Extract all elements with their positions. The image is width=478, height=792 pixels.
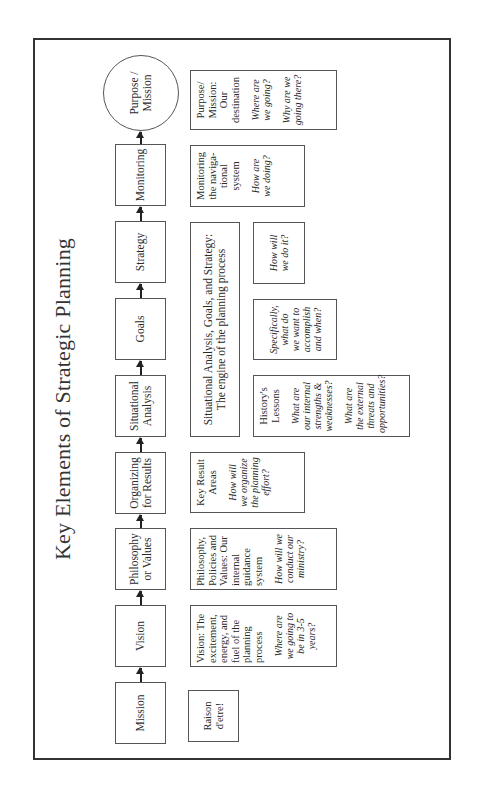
- desc-main: History's Lessons: [258, 379, 281, 433]
- desc-question: How are we doing?: [250, 149, 272, 203]
- desc-mission: Raison d'etre!: [188, 690, 239, 742]
- arrow-icon: [140, 591, 142, 605]
- desc-question: How will we organize the planning effort…: [227, 456, 271, 509]
- desc-question: How will we do it?: [268, 226, 290, 280]
- desc-question: What are the external threats and opport…: [343, 379, 387, 433]
- step-monitoring: Monitoring: [115, 144, 166, 206]
- desc-question: Where are we going?: [250, 74, 272, 126]
- arrow-icon: [140, 438, 142, 452]
- desc-main: Purpose/ Mission: Our destination: [195, 74, 241, 126]
- desc-question: Where are we going to be in 3-5 years?: [273, 609, 317, 663]
- desc-purpose: Purpose/ Mission: Our destination Where …: [190, 70, 337, 130]
- step-situational-analysis: Situational Analysis: [115, 375, 166, 437]
- desc-question: Why are we going there?: [281, 74, 303, 126]
- step-label: Strategy: [134, 233, 147, 271]
- step-vision: Vision: [115, 605, 166, 667]
- desc-question: What are our internal strengths & weakne…: [290, 379, 334, 433]
- desc-question: How will we conduct our ministry?: [273, 532, 306, 586]
- desc-monitoring: Monitoring the naviga- tional system How…: [190, 145, 305, 207]
- desc-main: Situational Analysis, Goals, and Strateg…: [202, 226, 228, 433]
- desc-vision: Vision: The excitement, energy, and fuel…: [190, 605, 337, 667]
- desc-main: Raison d'etre!: [202, 694, 225, 738]
- desc-situational: History's Lessons What are our internal …: [253, 375, 410, 437]
- end-purpose-mission: Purpose / Mission: [103, 55, 179, 131]
- desc-question: Specifically, what do we want to accompl…: [268, 303, 323, 356]
- step-label: Goals: [134, 316, 147, 343]
- diagram-title: Key Elements of Strategic Planning: [50, 38, 76, 760]
- desc-main: Key Result Areas: [195, 456, 218, 509]
- desc-philosophy: Philosophy, Policies and Values: Our int…: [190, 528, 337, 590]
- desc-main: Monitoring the naviga- tional system: [195, 149, 241, 203]
- arrow-icon: [140, 515, 142, 528]
- step-label: Monitoring: [134, 149, 147, 201]
- diagram-stage: Key Elements of Strategic Planning Missi…: [0, 0, 478, 792]
- desc-main: Philosophy, Policies and Values: Our int…: [195, 532, 264, 586]
- step-philosophy: Philosophy or Values: [115, 528, 166, 590]
- arrow-icon: [140, 284, 142, 298]
- step-label: Organizing for Results: [128, 457, 154, 509]
- end-label: Purpose / Mission: [128, 71, 154, 114]
- step-goals: Goals: [115, 298, 166, 360]
- step-label: Vision: [134, 621, 147, 651]
- desc-goals: Specifically, what do we want to accompl…: [253, 299, 337, 360]
- step-organizing: Organizing for Results: [115, 452, 166, 514]
- step-label: Mission: [134, 694, 147, 731]
- desc-main: Vision: The excitement, energy, and fuel…: [195, 609, 264, 663]
- step-strategy: Strategy: [115, 221, 166, 283]
- desc-organizing: Key Result Areas How will we organize th…: [190, 452, 305, 513]
- desc-engine: Situational Analysis, Goals, and Strateg…: [190, 222, 240, 437]
- step-label: Philosophy or Values: [128, 533, 154, 585]
- arrow-icon: [140, 207, 142, 221]
- step-mission: Mission: [115, 682, 166, 744]
- arrow-icon: [140, 668, 142, 682]
- arrow-icon: [140, 132, 142, 144]
- step-label: Situational Analysis: [128, 381, 154, 431]
- arrow-icon: [140, 361, 142, 375]
- desc-strategy: How will we do it?: [253, 222, 305, 284]
